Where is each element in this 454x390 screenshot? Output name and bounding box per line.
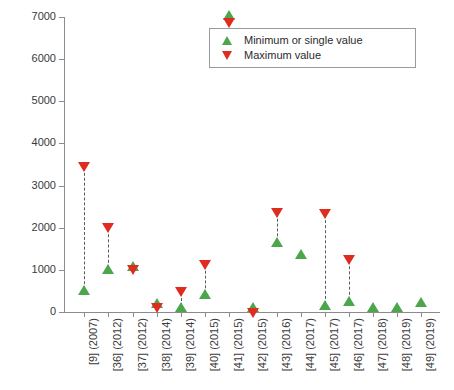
chart-legend: Minimum or single value Maximum value <box>209 28 416 68</box>
x-axis-tick-label: [43] (2016) <box>281 318 292 371</box>
y-axis-tick <box>59 270 64 271</box>
triangle-down-icon <box>216 51 238 60</box>
marker-minimum <box>319 300 331 310</box>
marker-maximum <box>271 208 283 218</box>
x-axis-tick <box>277 312 278 317</box>
x-axis-tick-label: [46] (2017) <box>353 318 364 371</box>
marker-maximum <box>102 223 114 233</box>
y-axis-tick-label: 4000 <box>6 137 56 148</box>
x-axis-tick <box>157 312 158 317</box>
y-axis-tick-label: 6000 <box>6 53 56 64</box>
x-axis-tick <box>301 312 302 317</box>
y-axis-tick-label: 3000 <box>6 180 56 191</box>
x-axis-tick <box>325 312 326 317</box>
y-axis-tick <box>59 17 64 18</box>
legend-label-maximum: Maximum value <box>238 49 321 62</box>
x-axis-tick-label: [42] (2015) <box>257 318 268 371</box>
marker-maximum <box>78 162 90 172</box>
marker-maximum <box>127 265 139 275</box>
y-axis-tick-label: 1000 <box>6 264 56 275</box>
x-axis-tick-label: [47] (2018) <box>377 318 388 371</box>
x-axis-tick <box>108 312 109 317</box>
x-axis-tick-label: [39] (2014) <box>185 318 196 371</box>
x-axis-tick-label: [38] (2014) <box>161 318 172 371</box>
x-axis-tick-label: [37] (2012) <box>137 318 148 371</box>
x-axis-tick <box>421 312 422 317</box>
marker-minimum <box>415 297 427 307</box>
y-axis-tick <box>59 312 64 313</box>
y-axis-tick-label: 0 <box>6 306 56 317</box>
marker-minimum <box>271 237 283 247</box>
x-axis-tick-label: [41] (2015) <box>233 318 244 371</box>
marker-maximum <box>223 18 235 28</box>
marker-minimum <box>175 302 187 312</box>
y-axis-tick-label: 5000 <box>6 95 56 106</box>
marker-minimum <box>199 289 211 299</box>
x-axis-tick-label: [48] (2019) <box>401 318 412 371</box>
x-axis-tick <box>373 312 374 317</box>
y-axis-tick-label: 2000 <box>6 222 56 233</box>
marker-minimum <box>295 249 307 259</box>
marker-maximum <box>175 287 187 297</box>
x-axis-tick <box>349 312 350 317</box>
x-axis-tick-label: [44] (2017) <box>305 318 316 371</box>
x-axis-tick-label: [49] (2019) <box>425 318 436 371</box>
range-connector-line <box>84 163 85 294</box>
y-axis-tick <box>59 186 64 187</box>
x-axis-tick <box>397 312 398 317</box>
range-connector-line <box>325 210 326 309</box>
marker-minimum <box>78 285 90 295</box>
marker-maximum <box>343 255 355 265</box>
legend-label-minimum: Minimum or single value <box>238 34 363 47</box>
y-axis-tick <box>59 143 64 144</box>
y-axis-tick-label: 7000 <box>6 11 56 22</box>
x-axis-tick <box>181 312 182 317</box>
marker-maximum <box>199 260 211 270</box>
x-axis-tick <box>205 312 206 317</box>
marker-maximum <box>247 308 259 318</box>
y-axis-tick <box>59 228 64 229</box>
profit-scatter-chart: Profit (£/year) 010002000300040005000600… <box>0 0 454 390</box>
marker-minimum <box>343 296 355 306</box>
legend-item-maximum: Maximum value <box>216 48 409 63</box>
x-axis-tick <box>133 312 134 317</box>
x-axis-tick-label: [9] (2007) <box>88 318 99 365</box>
y-axis-tick <box>59 101 64 102</box>
marker-maximum <box>151 303 163 313</box>
marker-minimum <box>102 264 114 274</box>
x-axis-tick-label: [40] (2015) <box>209 318 220 371</box>
triangle-up-icon <box>216 36 238 45</box>
marker-maximum <box>319 209 331 219</box>
marker-minimum <box>391 302 403 312</box>
legend-item-minimum: Minimum or single value <box>216 33 409 48</box>
x-axis-tick <box>229 312 230 317</box>
marker-minimum <box>367 302 379 312</box>
y-axis-tick-labels: 01000200030004000500060007000 <box>0 0 56 390</box>
x-axis-tick-label: [36] (2012) <box>112 318 123 371</box>
y-axis-tick <box>59 59 64 60</box>
x-axis-tick <box>84 312 85 317</box>
x-axis-tick-label: [45] (2017) <box>329 318 340 371</box>
